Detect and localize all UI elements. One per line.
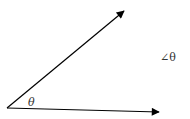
- angle-diagram: θ ∠θ: [0, 0, 190, 119]
- upper-ray-arrow: [7, 11, 124, 108]
- angle-theta-label: ∠θ: [160, 51, 176, 64]
- theta-label: θ: [28, 96, 35, 109]
